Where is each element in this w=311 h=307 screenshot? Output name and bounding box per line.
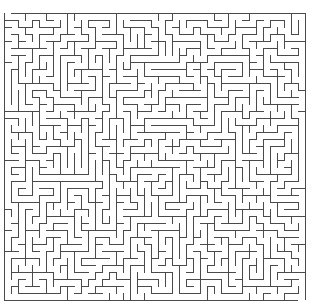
maze-board (0, 0, 311, 307)
